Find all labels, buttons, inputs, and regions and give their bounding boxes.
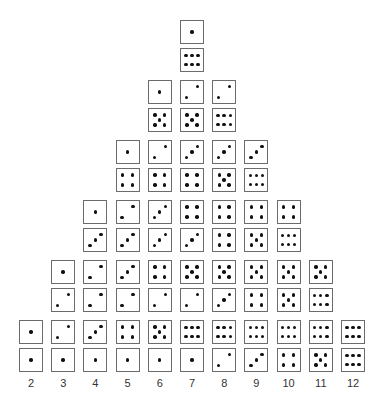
- pip-icon: [229, 123, 232, 126]
- die-upper-3: [148, 200, 172, 224]
- pip-icon: [325, 326, 328, 329]
- pip-icon: [99, 293, 102, 296]
- pip-icon: [222, 114, 225, 117]
- pip-icon: [190, 54, 193, 57]
- pip-icon: [99, 233, 102, 236]
- die-upper-4: [116, 320, 140, 344]
- pip-icon: [255, 183, 258, 186]
- die-upper-6: [309, 320, 333, 344]
- pip-icon: [313, 335, 316, 338]
- die-upper-3: [180, 140, 204, 164]
- die-upper-3: [116, 260, 140, 284]
- pip-icon: [292, 363, 295, 366]
- pip-icon: [357, 354, 360, 357]
- die-upper-6: [341, 320, 365, 344]
- pip-icon: [255, 238, 258, 241]
- pip-icon: [222, 326, 225, 329]
- pip-icon: [153, 244, 156, 247]
- die-upper-1: [116, 140, 140, 164]
- pip-icon: [163, 123, 166, 126]
- pip-icon: [153, 304, 156, 307]
- pip-icon: [121, 335, 124, 338]
- die-lower-2: [51, 288, 75, 312]
- pip-icon: [61, 358, 64, 361]
- die-lower-2: [116, 288, 140, 312]
- die-lower-3: [212, 288, 236, 312]
- pip-icon: [120, 216, 123, 219]
- pip-icon: [218, 205, 221, 208]
- die-upper-5: [244, 260, 268, 284]
- pip-icon: [120, 304, 123, 307]
- die-lower-3: [180, 228, 204, 252]
- die-upper-4: [244, 200, 268, 224]
- die-lower-5: [277, 288, 301, 312]
- pip-icon: [195, 275, 198, 278]
- pip-icon: [218, 183, 221, 186]
- pip-icon: [260, 215, 263, 218]
- die-lower-4: [212, 228, 236, 252]
- pip-icon: [185, 205, 188, 208]
- pip-icon: [121, 183, 124, 186]
- pip-icon: [217, 96, 220, 99]
- pip-icon: [29, 330, 32, 333]
- die-lower-1: [116, 348, 140, 372]
- pip-icon: [196, 335, 199, 338]
- pip-icon: [217, 156, 220, 159]
- pip-icon: [67, 293, 70, 296]
- pip-icon: [249, 156, 252, 159]
- dice-sum-diagram: 23456789101112: [0, 0, 384, 403]
- pip-icon: [88, 244, 91, 247]
- pip-icon: [153, 265, 156, 268]
- pip-icon: [158, 118, 161, 121]
- pip-icon: [190, 270, 193, 273]
- pip-icon: [190, 63, 193, 66]
- pip-icon: [94, 358, 97, 361]
- pip-icon: [218, 215, 221, 218]
- pip-icon: [216, 114, 219, 117]
- pip-icon: [184, 326, 187, 329]
- pip-icon: [250, 215, 253, 218]
- pip-icon: [287, 298, 290, 301]
- die-lower-5: [180, 108, 204, 132]
- die-lower-1: [180, 348, 204, 372]
- die-lower-3: [116, 228, 140, 252]
- pip-icon: [229, 335, 232, 338]
- pip-icon: [222, 123, 225, 126]
- pip-icon: [261, 326, 264, 329]
- pip-icon: [131, 335, 134, 338]
- pip-icon: [292, 265, 295, 268]
- pip-icon: [94, 330, 97, 333]
- pip-icon: [227, 205, 230, 208]
- pip-icon: [164, 145, 167, 148]
- pip-icon: [281, 243, 284, 246]
- pip-icon: [218, 173, 221, 176]
- pip-icon: [131, 233, 134, 236]
- pip-icon: [227, 215, 230, 218]
- die-upper-1: [51, 260, 75, 284]
- die-lower-1: [83, 348, 107, 372]
- die-upper-4: [277, 200, 301, 224]
- pip-icon: [126, 150, 129, 153]
- die-lower-1: [19, 348, 43, 372]
- pip-icon: [190, 238, 193, 241]
- pip-icon: [292, 303, 295, 306]
- pip-icon: [282, 275, 285, 278]
- pip-icon: [131, 173, 134, 176]
- pip-icon: [249, 364, 252, 367]
- pip-icon: [250, 265, 253, 268]
- die-lower-2: [212, 348, 236, 372]
- pip-icon: [249, 326, 252, 329]
- pip-icon: [153, 275, 156, 278]
- die-upper-2: [116, 200, 140, 224]
- pip-icon: [319, 303, 322, 306]
- die-upper-6: [180, 320, 204, 344]
- die-lower-2: [83, 288, 107, 312]
- pip-icon: [282, 353, 285, 356]
- die-lower-5: [148, 108, 172, 132]
- pip-icon: [185, 173, 188, 176]
- pip-icon: [218, 243, 221, 246]
- pip-icon: [88, 276, 91, 279]
- pip-icon: [190, 150, 193, 153]
- pip-icon: [292, 275, 295, 278]
- pip-icon: [94, 238, 97, 241]
